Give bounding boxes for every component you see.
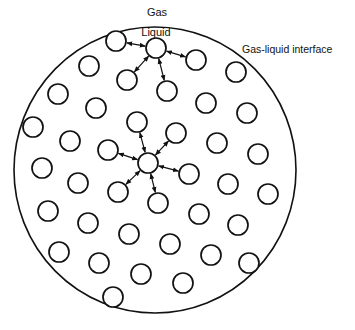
molecule [32,158,52,178]
molecule [226,62,246,82]
interior-molecule [138,153,158,173]
neighbor-molecule [127,112,147,132]
molecule [248,144,268,164]
molecule [218,174,238,194]
molecule [173,273,193,293]
molecule [49,242,69,262]
double-arrow-icon [127,43,145,46]
molecule [60,131,80,151]
molecule [237,103,257,123]
liquid-label: Liquid [141,26,170,38]
neighbor-molecule [108,182,128,202]
molecule [131,264,151,284]
double-arrow-icon [159,166,179,171]
molecule [103,287,123,307]
double-arrow-icon [159,59,165,81]
molecule-group [23,31,278,307]
neighbor-molecule [186,50,206,70]
double-arrow-icon [151,174,156,193]
molecule [228,215,248,235]
neighbor-molecule [166,123,186,143]
neighbor-molecule [148,193,168,213]
molecule [38,201,58,221]
double-arrow-icon [118,153,137,159]
double-arrow-icon [140,133,145,153]
gas-liquid-interface-label: Gas-liquid interface [242,43,333,55]
double-arrow-icon [156,141,169,155]
neighbor-molecule [117,70,137,90]
surface-molecule [146,38,166,58]
surface-tension-diagram: Gas Liquid Gas-liquid interface [0,0,355,330]
gas-label: Gas [147,6,168,18]
molecule [48,84,68,104]
molecule [78,213,98,233]
molecule [207,133,227,153]
molecule [86,98,106,118]
molecule [23,117,43,137]
molecule [89,253,109,273]
molecule [196,93,216,113]
molecule [258,184,278,204]
molecule [201,245,221,265]
double-arrow-icon [134,56,148,72]
neighbor-molecule [106,31,126,51]
neighbor-molecule [157,81,177,101]
molecule [189,204,209,224]
molecule [239,253,259,273]
molecule [160,234,180,254]
molecule [119,224,139,244]
double-arrow-icon [126,171,140,185]
molecule [79,56,99,76]
molecule [68,173,88,193]
neighbor-molecule [98,140,118,160]
neighbor-molecule [179,164,199,184]
double-arrow-icon [167,51,186,57]
